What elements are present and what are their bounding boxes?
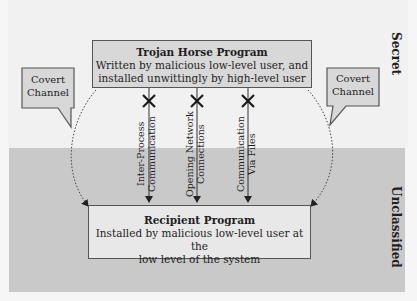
trojan-horse-program-box: Trojan Horse Program Written by maliciou…	[92, 40, 312, 88]
channel-label-ipc: Inter-Process Communication	[135, 111, 157, 197]
trojan-desc-line1: Written by malicious low-level user, and	[93, 59, 311, 72]
unclassified-label: Unclassified	[389, 186, 403, 268]
left-covert-channel-callout: Covert Channel	[22, 73, 74, 99]
secret-label: Secret	[389, 32, 403, 75]
channel-label-files: Communication Via Files	[235, 111, 257, 197]
trojan-desc-line2: installed unwittingly by high-level user	[93, 72, 311, 85]
right-covert-channel-path	[308, 90, 333, 206]
recipient-program-box: Recipient Program Installed by malicious…	[88, 205, 311, 259]
channel-label-network: Opening Network Connections	[184, 111, 206, 197]
right-covert-channel-callout: Covert Channel	[327, 72, 379, 98]
recipient-title: Recipient Program	[89, 214, 310, 227]
left-covert-channel-path	[71, 90, 96, 206]
recipient-desc-line1: Installed by malicious low-level user at…	[89, 227, 310, 253]
recipient-desc-line2: low level of the system	[89, 253, 310, 266]
trojan-title: Trojan Horse Program	[93, 46, 311, 59]
